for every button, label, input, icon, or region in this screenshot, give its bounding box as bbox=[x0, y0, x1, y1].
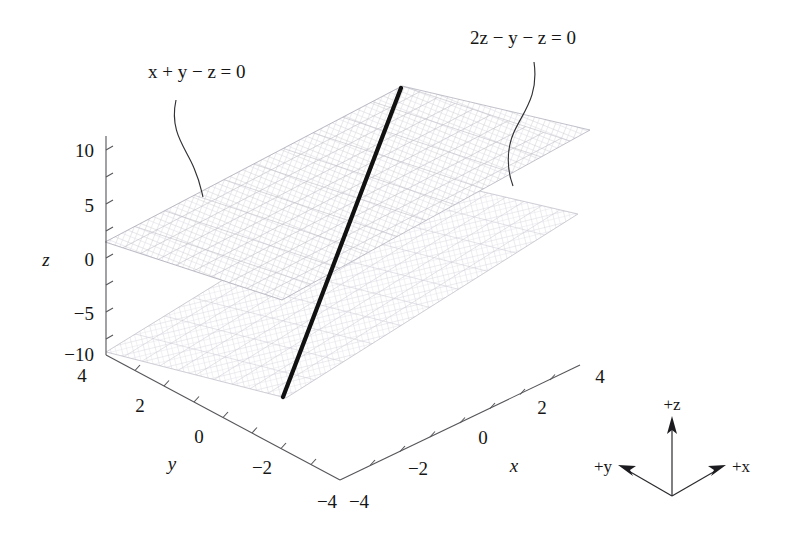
axis-z bbox=[106, 136, 113, 355]
x-tick-label-2: 2 bbox=[537, 397, 547, 418]
z-tick-label-neg10: −10 bbox=[64, 344, 94, 365]
x-tick-label-neg2: −2 bbox=[408, 458, 428, 479]
triad-axis-x bbox=[672, 470, 717, 496]
triad-label-z: +z bbox=[663, 395, 681, 414]
y-tick-label-neg2: −2 bbox=[252, 457, 272, 478]
z-tick-label-5: 5 bbox=[85, 195, 95, 216]
y-tick-label-neg4: −4 bbox=[317, 491, 338, 512]
triad-label-x: +x bbox=[732, 457, 751, 476]
z-tick-label-0: 0 bbox=[85, 249, 95, 270]
y-tick-label-0: 0 bbox=[194, 426, 204, 447]
axis-label-y: y bbox=[166, 453, 177, 474]
z-tick-label-10: 10 bbox=[75, 140, 94, 161]
axis-label-x: x bbox=[509, 455, 519, 476]
axis-label-z: z bbox=[41, 249, 50, 270]
y-tick-label-2: 2 bbox=[135, 395, 145, 416]
z-tick-label-neg5: −5 bbox=[74, 303, 94, 324]
annotation-plane-1: x + y − z = 0 bbox=[148, 61, 246, 82]
x-tick-label-neg4: −4 bbox=[349, 491, 370, 512]
triad-arrowhead-x bbox=[708, 465, 726, 476]
triad-arrowhead-y bbox=[618, 465, 636, 476]
x-tick-label-4: 4 bbox=[595, 366, 605, 387]
triad-axis-y bbox=[627, 470, 672, 496]
orientation-triad: +z +y +x bbox=[594, 395, 751, 496]
y-tick-label-4: 4 bbox=[77, 365, 87, 386]
figure-canvas: 10 5 0 −5 −10 z 4 2 0 −2 −4 y bbox=[0, 0, 791, 538]
x-tick-label-0: 0 bbox=[478, 427, 488, 448]
annotation-plane-2: 2z − y − z = 0 bbox=[470, 27, 576, 48]
leader-line-plane-1 bbox=[174, 100, 203, 197]
plot-svg: 10 5 0 −5 −10 z 4 2 0 −2 −4 y bbox=[0, 0, 791, 538]
axis-x bbox=[340, 365, 580, 480]
triad-label-y: +y bbox=[594, 457, 613, 476]
